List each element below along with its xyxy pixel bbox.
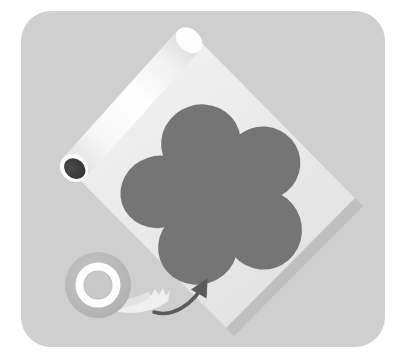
craft-illustration-svg <box>0 0 401 363</box>
illustration-canvas: Decorative paper craft illustration Flow… <box>0 0 401 363</box>
